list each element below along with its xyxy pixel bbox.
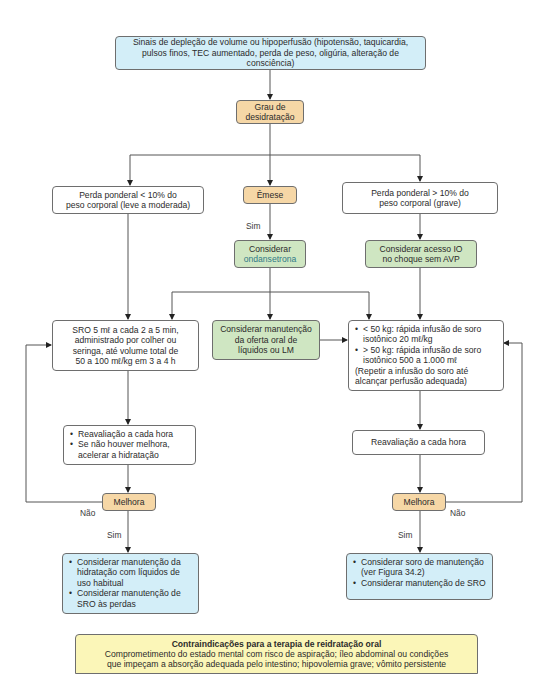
oral-rehydration-box: SRO 5 mℓ a cada 2 a 5 min, administrado … bbox=[52, 320, 199, 371]
grau-line-2: desidratação bbox=[245, 112, 294, 122]
dose-item-under-50: < 50 kg: rápida infusão de soro isotônic… bbox=[363, 324, 497, 345]
contraindications-line-1: Comprometimento do estado mental com ris… bbox=[105, 649, 448, 659]
left-condition-line-2: peso corporal (leve a moderada) bbox=[66, 200, 190, 210]
ondansetron-box: Considerar ondansetrona bbox=[234, 240, 306, 268]
right-outcome-item-2: Considerar manutenção de SRO bbox=[361, 578, 486, 588]
right-reassess-label: Reavaliação a cada hora bbox=[371, 437, 466, 447]
manutencao-line-3: líquidos ou LM bbox=[238, 345, 294, 355]
io-access-box: Considerar acesso IO no choque sem AVP bbox=[365, 240, 477, 268]
right-nao-label: Não bbox=[450, 508, 465, 518]
contraindications-box: Contraindicações para a terapia de reidr… bbox=[75, 634, 478, 674]
right-melhora-label: Melhora bbox=[403, 497, 434, 507]
right-improvement-decision: Melhora bbox=[392, 493, 446, 511]
mild-moderate-loss-box: Perda ponderal < 10% do peso corporal (l… bbox=[52, 186, 204, 214]
left-condition-line-1: Perda ponderal < 10% do bbox=[79, 190, 177, 200]
manutencao-line-2: da oferta oral de bbox=[235, 335, 298, 345]
ondansetrona-line-2: ondansetrona bbox=[244, 254, 297, 264]
start-line-2: pulsos finos, TEC aumentado, perda de pe… bbox=[120, 48, 421, 69]
contraindications-title: Contraindicações para a terapia de reidr… bbox=[172, 639, 382, 649]
left-sim-label: Sim bbox=[107, 530, 121, 540]
dehydration-degree-decision: Grau de desidratação bbox=[236, 100, 304, 124]
left-reassess-item-2: Se não houver melhora, acelerar a hidrat… bbox=[78, 439, 189, 460]
sro-line-1: SRO 5 mℓ a cada 2 a 5 min, bbox=[72, 325, 178, 335]
right-reassessment-box: Reavaliação a cada hora bbox=[352, 430, 485, 455]
severe-loss-box: Perda ponderal > 10% do peso corporal (g… bbox=[342, 182, 498, 214]
left-nao-label: Não bbox=[80, 508, 95, 518]
right-outcome-box: Considerar soro de manutenção (ver Figur… bbox=[346, 553, 493, 600]
dose-note: (Repetir a infusão do soro até alcançar … bbox=[355, 366, 497, 387]
left-reassess-item-1: Reavaliação a cada hora bbox=[78, 429, 189, 439]
left-reassessment-box: Reavaliação a cada hora Se não houver me… bbox=[63, 425, 196, 465]
ondansetrona-line-1: Considerar bbox=[249, 244, 291, 254]
contraindications-line-2: que impeçam a absorção adequada pelo int… bbox=[107, 659, 446, 669]
acesso-line-2: no choque sem AVP bbox=[382, 254, 459, 264]
right-outcome-item-1: Considerar soro de manutenção (ver Figur… bbox=[361, 557, 486, 578]
emese-sim-label: Sim bbox=[246, 221, 260, 231]
right-condition-line-1: Perda ponderal > 10% do bbox=[371, 188, 469, 198]
left-outcome-box: Considerar manutenção da hidratação com … bbox=[62, 553, 199, 614]
left-melhora-label: Melhora bbox=[113, 497, 144, 507]
left-outcome-item-1: Considerar manutenção da hidratação com … bbox=[77, 557, 192, 588]
sro-line-2: administrado por colher ou bbox=[75, 335, 177, 345]
start-symptoms-box: Sinais de depleção de volume ou hipoperf… bbox=[115, 36, 426, 70]
oral-maintenance-box: Considerar manutenção da oferta oral de … bbox=[212, 320, 320, 360]
acesso-line-1: Considerar acesso IO bbox=[379, 244, 462, 254]
start-line-1: Sinais de depleção de volume ou hipoperf… bbox=[133, 37, 408, 47]
sro-line-4: 50 a 100 mℓ/kg em 3 a 4 h bbox=[75, 356, 175, 366]
grau-line-1: Grau de bbox=[254, 102, 285, 112]
isotonic-infusion-box: < 50 kg: rápida infusão de soro isotônic… bbox=[348, 320, 504, 391]
emese-label: Êmese bbox=[257, 190, 284, 200]
manutencao-line-1: Considerar manutenção bbox=[220, 324, 312, 334]
left-outcome-item-2: Considerar manutenção de SRO às perdas bbox=[77, 588, 192, 609]
dose-item-over-50: > 50 kg: rápida infusão de soro isotônic… bbox=[363, 345, 497, 366]
sro-line-3: seringa, até volume total de bbox=[73, 346, 179, 356]
left-improvement-decision: Melhora bbox=[102, 493, 156, 511]
right-condition-line-2: peso corporal (grave) bbox=[379, 198, 461, 208]
emesis-decision: Êmese bbox=[243, 186, 297, 204]
right-sim-label: Sim bbox=[398, 530, 412, 540]
